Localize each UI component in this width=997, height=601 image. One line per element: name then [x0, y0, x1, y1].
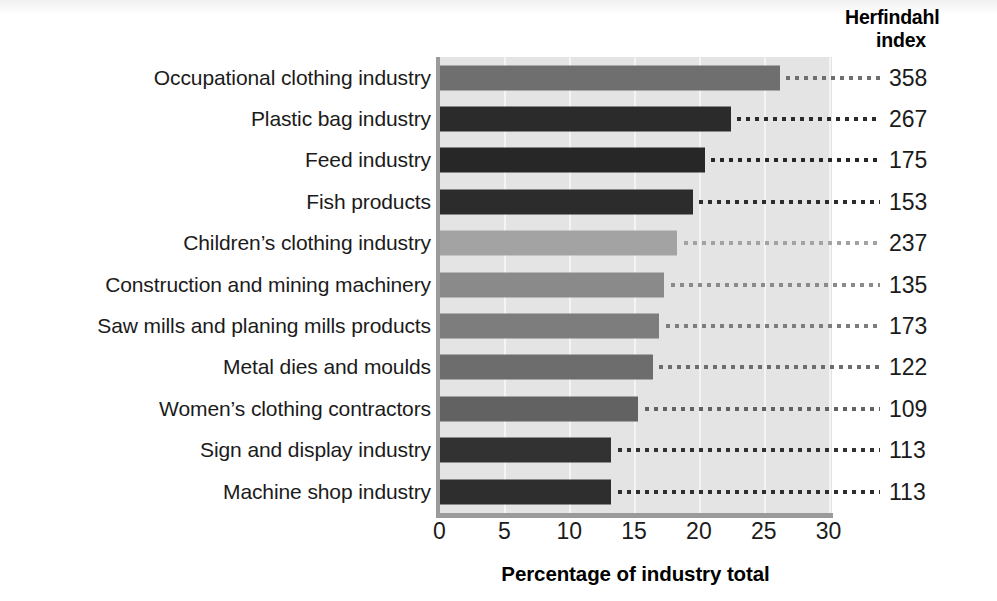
category-label: Plastic bag industry: [251, 107, 431, 131]
bar-row: Feed industry175: [0, 140, 997, 181]
bar: [440, 396, 638, 421]
herfindahl-index-value: 113: [889, 437, 926, 464]
herfindahl-index-value: 173: [889, 313, 927, 340]
bar-row: Fish products153: [0, 181, 997, 222]
bar: [440, 189, 693, 214]
herfindahl-index-value: 267: [889, 106, 927, 133]
leader-dots: [645, 407, 880, 411]
herfindahl-index-value: 109: [889, 395, 927, 422]
herfindahl-index-value: 135: [889, 271, 927, 298]
category-label: Saw mills and planing mills products: [97, 314, 431, 338]
bar: [440, 355, 653, 380]
category-label: Children’s clothing industry: [183, 231, 431, 255]
herfindahl-index-header-line1: Herfindahl: [845, 6, 939, 28]
herfindahl-index-value: 122: [889, 354, 927, 381]
herfindahl-index-value: 237: [889, 230, 927, 257]
leader-dots: [786, 76, 880, 80]
bar: [440, 231, 677, 256]
x-tick-label-0: 0: [420, 518, 460, 545]
category-label: Construction and mining machinery: [105, 273, 431, 297]
x-tick-label-15: 15: [614, 518, 654, 545]
bar-row: Metal dies and moulds122: [0, 347, 997, 388]
bar: [440, 148, 705, 173]
category-label: Fish products: [306, 190, 431, 214]
x-tick-label-5: 5: [484, 518, 524, 545]
leader-dots: [671, 283, 880, 287]
herfindahl-index-header-line2: index: [845, 29, 957, 52]
category-label: Metal dies and moulds: [223, 355, 431, 379]
bar-row: Plastic bag industry267: [0, 98, 997, 139]
bar-row: Saw mills and planing mills products173: [0, 305, 997, 346]
leader-dots: [666, 324, 880, 328]
leader-dots: [618, 448, 880, 452]
bar-chart-figure: Herfindahl index Occupational clothing i…: [0, 0, 997, 601]
bar-row: Machine shop industry113: [0, 471, 997, 512]
herfindahl-index-value: 113: [889, 478, 926, 505]
bar: [440, 479, 611, 504]
bar-row: Occupational clothing industry358: [0, 57, 997, 98]
bar: [440, 65, 780, 90]
leader-dots: [699, 200, 880, 204]
x-tick-label-25: 25: [744, 518, 784, 545]
x-tick-label-30: 30: [809, 518, 849, 545]
leader-dots: [737, 117, 880, 121]
bar: [440, 438, 611, 463]
leader-dots: [684, 241, 880, 245]
category-label: Women’s clothing contractors: [159, 397, 431, 421]
x-axis-title: Percentage of industry total: [439, 562, 832, 586]
category-label: Sign and display industry: [200, 438, 431, 462]
bar-row: Sign and display industry113: [0, 430, 997, 471]
category-label: Feed industry: [305, 148, 431, 172]
leader-dots: [618, 490, 880, 494]
leader-dots: [659, 365, 880, 369]
bar-row: Construction and mining machinery135: [0, 264, 997, 305]
category-label: Occupational clothing industry: [154, 66, 431, 90]
bar-row: Women’s clothing contractors109: [0, 388, 997, 429]
herfindahl-index-value: 175: [889, 147, 927, 174]
bar: [440, 107, 731, 132]
category-label: Machine shop industry: [223, 480, 431, 504]
bar: [440, 272, 664, 297]
bar-row: Children’s clothing industry237: [0, 223, 997, 264]
x-tick-label-10: 10: [549, 518, 589, 545]
x-tick-label-20: 20: [679, 518, 719, 545]
leader-dots: [711, 158, 880, 162]
bar: [440, 314, 659, 339]
herfindahl-index-header: Herfindahl index: [845, 6, 990, 52]
herfindahl-index-value: 153: [889, 188, 927, 215]
herfindahl-index-value: 358: [889, 64, 927, 91]
